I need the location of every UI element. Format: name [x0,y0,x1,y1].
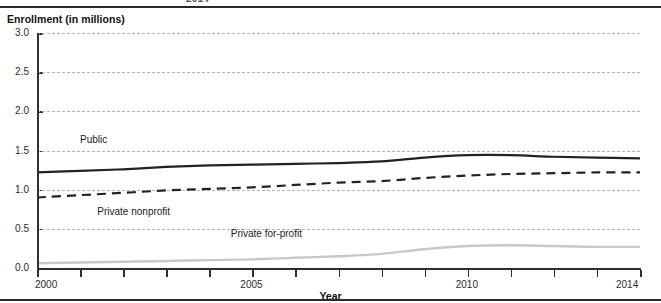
series-label-public: Public [80,134,107,145]
x-tick-label: 2005 [240,279,262,290]
x-tick-label: 2014 [616,279,638,290]
y-tick-label: 1.5 [3,145,29,156]
x-tick-label: 2000 [35,279,57,290]
series-line-public [37,155,640,172]
y-tick-label: 0.5 [3,223,29,234]
x-tick-mark [382,270,384,277]
y-tick-label: 3.0 [3,27,29,38]
x-tick-mark [554,270,556,277]
series-line-private-for-profit [37,245,640,263]
x-tick-mark [339,270,341,277]
x-tick-mark [597,270,599,277]
bottom-divider-rule [0,299,661,301]
x-tick-label: 2010 [456,279,478,290]
x-tick-mark [209,270,211,277]
y-axis-line [37,33,39,269]
series-line-private-nonprofit [37,172,640,197]
y-axis-title: Enrollment (in millions) [7,13,125,25]
x-tick-mark [37,270,39,277]
plot-area [37,33,640,268]
x-tick-mark [80,270,82,277]
series-label-private-nonprofit: Private nonprofit [97,206,170,217]
x-tick-mark [166,270,168,277]
x-tick-mark [295,270,297,277]
x-tick-mark [511,270,513,277]
clipped-caption-text: 2014 [186,0,209,4]
x-tick-mark [425,270,427,277]
x-tick-mark [252,270,254,277]
x-tick-mark [640,270,642,277]
y-tick-label: 2.5 [3,66,29,77]
y-tick-label: 1.0 [3,184,29,195]
top-divider-rule [0,6,661,8]
series-lines [37,33,640,268]
figure-root: 2014 Enrollment (in millions) 0.00.51.01… [0,0,661,303]
y-tick-label: 2.0 [3,105,29,116]
x-tick-mark [123,270,125,277]
y-tick-label: 0.0 [3,262,29,273]
x-tick-mark [468,270,470,277]
series-label-private-for-profit: Private for-profit [231,228,302,239]
